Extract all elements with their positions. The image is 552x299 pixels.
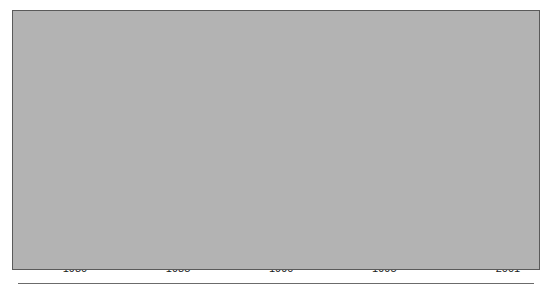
figure-container: 020406080100 19801985199019952001 Percen… [0, 0, 552, 299]
footer-divider-rule [18, 283, 534, 284]
chart-panel [12, 10, 540, 270]
